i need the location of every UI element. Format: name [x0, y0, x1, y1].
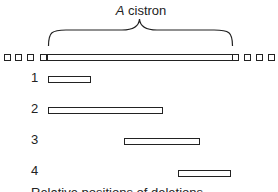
flanking-segment: [15, 54, 22, 61]
deletion-label: 4: [31, 163, 38, 178]
flanking-segment: [4, 54, 11, 61]
flanking-segment: [244, 54, 251, 61]
deletion-label: 3: [31, 132, 38, 147]
deletion-label: 1: [31, 70, 38, 85]
deletion-bar: [124, 138, 200, 145]
deletion-bar: [48, 76, 91, 83]
flanking-segment: [27, 54, 34, 61]
flanking-segment: [256, 54, 263, 61]
deletion-bar: [178, 170, 231, 177]
cistron-bar: [47, 54, 233, 61]
deletion-bar: [48, 107, 163, 114]
figure-caption: Relative positions of deletions: [31, 185, 203, 192]
flanking-segment: [40, 54, 47, 61]
flanking-segment: [232, 54, 239, 61]
deletion-label: 2: [31, 101, 38, 116]
flanking-segment: [268, 54, 275, 61]
cistron-brace: [0, 0, 278, 60]
